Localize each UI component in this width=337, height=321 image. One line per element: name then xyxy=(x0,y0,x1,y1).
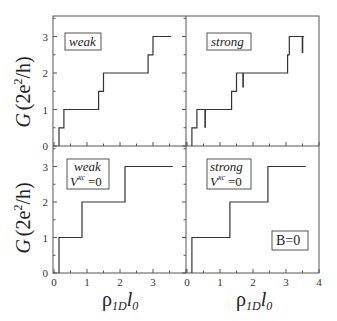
ylabel-bottom: G(2e2/h) xyxy=(11,182,35,253)
tick-label: 2 xyxy=(250,276,256,288)
label-strong-vxc: strong V xc =0 xyxy=(207,159,251,189)
tick-label: 0 xyxy=(43,267,49,279)
tick-label: 1 xyxy=(217,276,223,288)
xlabel-right: ρ1Dl0 xyxy=(236,288,272,313)
label-weak: weak xyxy=(65,33,101,50)
tick-label: 4 xyxy=(316,276,322,288)
svg-text:xc: xc xyxy=(217,173,226,182)
curve-1 xyxy=(192,37,304,147)
ylabel-top: G(2e2/h) xyxy=(11,56,35,127)
svg-text:=0: =0 xyxy=(88,174,102,189)
tick-label: 2 xyxy=(43,196,49,208)
tick-label: 3 xyxy=(43,161,49,173)
svg-text:weak: weak xyxy=(74,159,101,174)
label-weak-vxc: weak V xc =0 xyxy=(67,159,109,189)
svg-text:strong: strong xyxy=(210,159,243,174)
tick-label: 2 xyxy=(117,276,123,288)
figure-canvas: 01230123012301234 weak strong weak V xc … xyxy=(0,0,337,321)
tick-label: 1 xyxy=(84,276,90,288)
tick-label: 2 xyxy=(43,67,49,79)
tick-label: 1 xyxy=(43,104,49,116)
svg-text:B=0: B=0 xyxy=(276,233,300,248)
xlabel-left: ρ1Dl0 xyxy=(102,288,138,313)
tick-label: 3 xyxy=(283,276,289,288)
curve-0 xyxy=(59,37,171,147)
tick-label: 3 xyxy=(150,276,156,288)
svg-text:strong: strong xyxy=(211,34,244,49)
svg-text:xc: xc xyxy=(77,173,86,182)
svg-text:=0: =0 xyxy=(228,174,242,189)
svg-text:ρ1Dl0: ρ1Dl0 xyxy=(102,288,138,313)
label-strong: strong xyxy=(207,33,251,50)
tick-label: 1 xyxy=(43,232,49,244)
tick-label: 0 xyxy=(184,276,190,288)
tick-label: 0 xyxy=(43,140,49,152)
tick-label: 3 xyxy=(43,31,49,43)
svg-text:G(2e2/h): G(2e2/h) xyxy=(11,56,35,127)
svg-text:ρ1Dl0: ρ1Dl0 xyxy=(236,288,272,313)
tick-label: 0 xyxy=(51,276,57,288)
svg-text:weak: weak xyxy=(69,34,96,49)
label-b0: B=0 xyxy=(272,231,308,250)
svg-text:G(2e2/h): G(2e2/h) xyxy=(11,182,35,253)
